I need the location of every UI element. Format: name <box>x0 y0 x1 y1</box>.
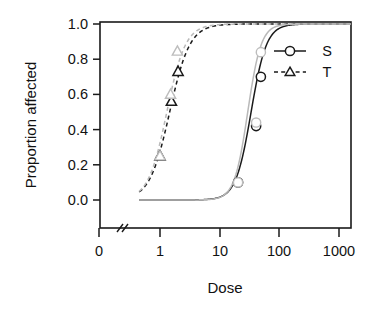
data-point-group <box>155 46 266 187</box>
legend-entry-t: T <box>274 64 332 80</box>
x-tick-label: 1000 <box>323 243 355 259</box>
plot-frame-group <box>100 22 351 228</box>
data-point-t <box>173 66 183 75</box>
legend-marker-triangle-icon <box>285 67 295 75</box>
y-tick-label: 1.0 <box>68 16 88 32</box>
y-tick-label: 0.8 <box>68 51 88 67</box>
x-axis-title: Dose <box>207 279 242 296</box>
y-tick-label: 0.6 <box>68 86 88 102</box>
chart-container: 0.00.20.40.60.81.0 01101001000 Dose Prop… <box>0 0 372 315</box>
curve-s-ghost <box>139 24 351 200</box>
x-tick-label: 1 <box>156 243 164 259</box>
x-tick-label: 10 <box>212 243 228 259</box>
data-point-s-ghost <box>252 118 261 127</box>
curve-t <box>139 24 351 192</box>
legend-marker-circle-icon <box>285 46 294 55</box>
y-tick-label: 0.2 <box>68 157 88 173</box>
y-axis-title: Proportion affected <box>22 62 39 188</box>
data-point-s <box>256 72 265 81</box>
data-point-s-ghost <box>256 48 265 57</box>
x-axis-tick-group: 01101001000 <box>95 228 355 259</box>
legend-label-s: S <box>322 43 332 59</box>
x-tick-label: 100 <box>267 243 291 259</box>
legend-label-t: T <box>323 64 332 80</box>
legend: S T <box>274 43 332 80</box>
x-tick-label: 0 <box>95 243 103 259</box>
curve-t-ghost <box>139 24 351 191</box>
curve-group <box>139 24 351 200</box>
dose-response-chart: 0.00.20.40.60.81.0 01101001000 Dose Prop… <box>0 0 372 315</box>
data-point-t-ghost <box>172 46 182 55</box>
legend-entry-s: S <box>274 43 332 59</box>
data-point-s-ghost <box>233 178 242 187</box>
curve-s <box>139 24 351 200</box>
y-axis-tick-group: 0.00.20.40.60.81.0 <box>68 16 100 208</box>
data-point-t-ghost <box>155 151 165 160</box>
plot-frame <box>100 22 351 228</box>
y-tick-label: 0.4 <box>68 122 88 138</box>
y-tick-label: 0.0 <box>68 192 88 208</box>
